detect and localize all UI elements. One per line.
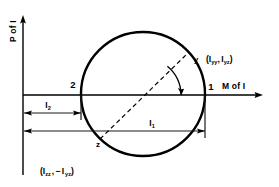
horizontal-axis-label: M of I bbox=[222, 81, 245, 91]
y-coord-close-paren: ) bbox=[230, 54, 233, 64]
z-coordinate-annotation: (Izz,−Iyz) bbox=[40, 166, 74, 177]
vertical-axis-label: P of I bbox=[8, 20, 18, 42]
double-angle-arc bbox=[167, 66, 184, 95]
z-coord-i-yz-symbol: I bbox=[62, 166, 64, 176]
mohr-circle-outline bbox=[81, 32, 205, 156]
svg-text:(Izz,−Iyz): (Izz,−Iyz) bbox=[40, 166, 74, 177]
z-coord-i-zz-subscript: zz bbox=[45, 171, 51, 177]
i2-subscript: 2 bbox=[48, 105, 51, 111]
z-coord-comma: , bbox=[52, 166, 54, 176]
dimension-lines-group bbox=[24, 95, 205, 138]
i1-dimension-label: I1 bbox=[149, 118, 155, 129]
i1-subscript: 1 bbox=[152, 123, 155, 129]
axis-group bbox=[20, 15, 263, 175]
angle-arc-path bbox=[167, 66, 181, 95]
mohr-circle-diagram: P of I M of I 2 1 y z (Iyy,Iyz) (Izz,−Iy… bbox=[0, 0, 279, 187]
svg-text:I1: I1 bbox=[149, 118, 155, 129]
y-coordinate-annotation: (Iyy,Iyz) bbox=[206, 54, 233, 65]
point-y-label: y bbox=[194, 55, 199, 64]
z-coord-close-paren: ) bbox=[71, 166, 74, 176]
z-coord-minus: − bbox=[56, 166, 61, 176]
i2-dimension-label: I2 bbox=[45, 100, 51, 111]
point-2-label: 2 bbox=[70, 79, 75, 90]
svg-text:(Iyy,Iyz): (Iyy,Iyz) bbox=[206, 54, 233, 65]
point-z-label: z bbox=[96, 140, 100, 149]
y-coord-comma: , bbox=[217, 54, 219, 64]
mohr-circle-figure: P of I M of I 2 1 y z (Iyy,Iyz) (Izz,−Iy… bbox=[0, 0, 279, 187]
principal-diameter-dashed-line bbox=[100, 53, 188, 139]
point-1-label: 1 bbox=[208, 81, 214, 92]
svg-text:I2: I2 bbox=[45, 100, 51, 111]
